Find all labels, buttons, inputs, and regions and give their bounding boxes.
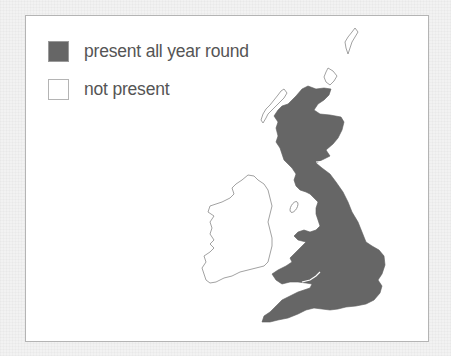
ireland-region bbox=[202, 175, 272, 283]
great-britain-region bbox=[262, 86, 385, 322]
isle-of-man-region bbox=[288, 200, 299, 213]
uk-map bbox=[0, 0, 451, 356]
orkney-region bbox=[324, 68, 337, 85]
shetland-region bbox=[345, 28, 358, 54]
